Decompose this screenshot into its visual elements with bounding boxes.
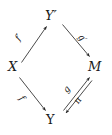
node-label-y-prime: Y′ xyxy=(45,9,57,22)
node-label-x: X xyxy=(8,60,17,73)
node-label-m: M xyxy=(88,60,102,73)
node-label-y: Y xyxy=(46,113,55,126)
arrow-f-prime xyxy=(22,27,47,63)
commutative-diagram: Y′ X M Y f′ g′ f g π xyxy=(0,0,112,135)
